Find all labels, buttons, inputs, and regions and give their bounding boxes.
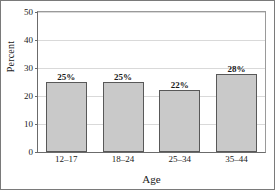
x-axis-tick-label: 35–44 <box>225 155 248 164</box>
y-axis-tick-mark <box>35 124 38 125</box>
bar-value-label: 25% <box>57 73 75 82</box>
bar-chart-figure: Percent 0102030405025%12–1725%18–2422%25… <box>0 0 275 190</box>
bar: 25%18–24 <box>103 82 144 152</box>
gridline <box>38 40 265 41</box>
bar-value-label: 25% <box>114 73 132 82</box>
y-axis-tick-label: 30 <box>24 64 33 73</box>
bar: 25%12–17 <box>46 82 87 152</box>
x-axis-tick-label: 12–17 <box>55 155 78 164</box>
y-axis-tick-mark <box>35 40 38 41</box>
x-axis-tick-label: 25–34 <box>169 155 192 164</box>
bar: 28%35–44 <box>216 74 257 152</box>
x-axis-tick-label: 18–24 <box>112 155 135 164</box>
y-axis-tick-label: 40 <box>24 36 33 45</box>
y-axis-tick-mark <box>35 96 38 97</box>
bar-value-label: 28% <box>228 65 246 74</box>
y-axis-tick-label: 10 <box>24 120 33 129</box>
y-axis-tick-label: 0 <box>29 148 34 157</box>
y-axis-tick-mark <box>35 12 38 13</box>
x-axis-title: Age <box>37 173 266 185</box>
y-axis-title: Percent <box>5 22 16 92</box>
y-axis-tick-mark <box>35 68 38 69</box>
gridline <box>38 12 265 13</box>
y-axis-tick-mark <box>35 152 38 153</box>
plot-area: 0102030405025%12–1725%18–2422%25–3428%35… <box>37 11 266 153</box>
bar-value-label: 22% <box>171 81 189 90</box>
y-axis-tick-label: 20 <box>24 92 33 101</box>
bar: 22%25–34 <box>159 90 200 152</box>
y-axis-tick-label: 50 <box>24 8 33 17</box>
